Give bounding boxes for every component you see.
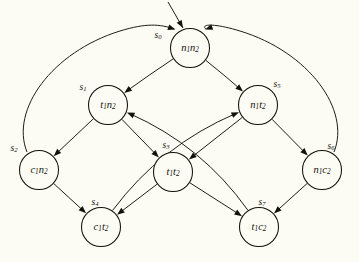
edge-s6-s0-outer (205, 25, 338, 152)
state-name-s6: s6 (328, 141, 336, 151)
nodes-layer (20, 29, 342, 247)
edge-s4-s5-curve-arrowhead (231, 112, 239, 118)
state-name-s1: s1 (80, 82, 87, 92)
edge-s2-s4 (54, 184, 84, 211)
state-diagram: n1n2s0t1n2s1n1t2s5c1n2s2t1t2s3n1c2s6c1t2… (0, 0, 359, 262)
state-name-s7: s7 (259, 197, 267, 207)
edge-s1-s2 (56, 119, 93, 154)
edge-s7-s1-curve-arrowhead (127, 112, 135, 118)
edge-s0-s1 (127, 59, 173, 91)
edge-s5-s6 (272, 119, 305, 153)
edge-s3-s4-arrowhead (117, 208, 125, 215)
edge-s3-s4 (120, 184, 157, 212)
edge-s3-s7 (190, 183, 239, 214)
edge-s6-s7 (277, 184, 307, 212)
state-name-s5: s5 (274, 79, 282, 89)
edge-s5-s3 (192, 117, 243, 157)
state-name-s2: s2 (11, 143, 19, 153)
state-name-s0: s0 (155, 30, 163, 40)
initial-state-arrow-arrowhead (177, 20, 183, 28)
edge-s2-s0-outer-arrowhead (167, 24, 175, 29)
state-name-s3: s3 (163, 140, 171, 150)
edge-s0-s1-arrowhead (124, 86, 132, 93)
edge-s0-s5 (206, 60, 240, 89)
state-name-s4: s4 (92, 197, 100, 207)
state-diagram-canvas: n1n2s0t1n2s1n1t2s5c1n2s2t1t2s3n1c2s6c1t2… (0, 0, 359, 262)
edge-s3-s7-arrowhead (234, 210, 242, 217)
